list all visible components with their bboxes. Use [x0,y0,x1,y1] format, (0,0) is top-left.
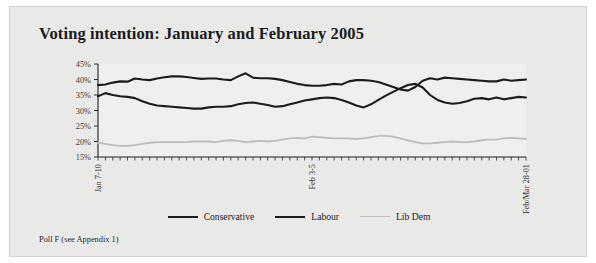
y-tick-label: 20% [76,138,91,147]
legend-label-labour: Labour [311,211,339,222]
legend-item-conservative: Conservative [168,211,255,222]
legend-label-lib-dem: Lib Dem [396,211,430,222]
y-tick-label: 25% [76,122,91,131]
legend-label-conservative: Conservative [204,211,255,222]
chart-footnote: Poll F (see Appendix 1) [39,235,119,244]
chart-legend: Conservative Labour Lib Dem [10,211,588,222]
x-tick-label: Jan 7-10 [94,164,103,192]
x-tick-label: Feb 3-5 [308,164,317,190]
x-tick-label: Feb/Mar 28-01 [522,164,531,214]
legend-swatch-lib-dem [360,216,390,217]
legend-item-lib-dem: Lib Dem [360,211,430,222]
legend-item-labour: Labour [275,211,339,222]
y-tick-label: 45% [76,60,91,69]
legend-swatch-labour [275,216,305,218]
y-tick-label: 30% [76,107,91,116]
chart-figure: Voting intention: January and February 2… [9,6,587,257]
y-tick-label: 35% [76,91,91,100]
y-tick-label: 15% [76,153,91,162]
y-tick-label: 40% [76,76,91,85]
legend-swatch-conservative [168,216,198,218]
